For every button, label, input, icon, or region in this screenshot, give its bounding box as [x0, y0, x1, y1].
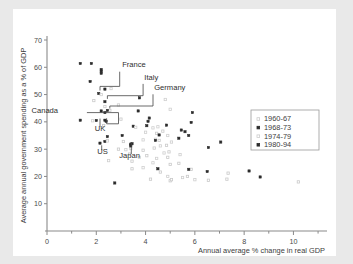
data-point — [153, 147, 155, 149]
annotation-france: France — [122, 60, 146, 69]
data-point — [131, 160, 133, 162]
scatter-chart: 102030405060700246810 FranceItalyGermany… — [13, 9, 336, 256]
annotation-germany: Germany — [154, 83, 185, 92]
data-point — [170, 141, 172, 143]
data-point — [144, 131, 146, 133]
data-point — [156, 132, 158, 134]
legend-marker — [257, 126, 260, 129]
data-point — [220, 141, 222, 143]
data-point — [170, 179, 172, 181]
data-point — [259, 176, 261, 178]
data-point — [91, 120, 93, 122]
data-point — [297, 181, 299, 183]
chart-card: 102030405060700246810 FranceItalyGermany… — [13, 9, 336, 256]
data-point — [89, 80, 91, 82]
data-point — [79, 62, 81, 64]
data-point — [190, 121, 192, 123]
data-point — [109, 109, 111, 111]
data-point — [194, 179, 196, 181]
data-point — [142, 167, 144, 169]
axis-titles: Annual average % change in real GDPAvera… — [19, 48, 325, 255]
data-point — [104, 101, 106, 103]
data-point — [137, 110, 139, 112]
data-point — [142, 139, 144, 141]
data-point — [159, 145, 161, 147]
data-point — [107, 159, 109, 161]
data-point — [158, 139, 160, 141]
data-point — [106, 109, 108, 111]
data-point — [146, 125, 148, 127]
series-1974-79 — [91, 87, 196, 180]
legend[interactable]: 1960-671968-731974-791980-94 — [251, 110, 319, 150]
legend-marker — [257, 118, 260, 121]
annotation-canada: Canada — [31, 106, 58, 115]
data-point — [158, 134, 160, 136]
data-point — [104, 105, 106, 107]
data-point — [90, 62, 92, 64]
y-axis-title: Average annual government spending as a … — [19, 48, 28, 224]
data-point — [169, 163, 171, 165]
data-point — [188, 134, 190, 136]
data-point — [106, 135, 108, 137]
data-point — [190, 168, 192, 170]
data-point — [132, 125, 134, 127]
data-point — [178, 162, 180, 164]
data-point — [178, 137, 180, 139]
data-point — [188, 168, 190, 170]
data-point — [156, 157, 158, 159]
x-tick-label: 2 — [94, 237, 98, 246]
data-point — [99, 142, 101, 144]
x-axis-title: Annual average % change in real GDP — [198, 246, 325, 255]
annotation-us: US — [97, 147, 108, 156]
y-tick-label: 20 — [34, 172, 42, 181]
legend-marker — [257, 135, 260, 138]
data-point — [148, 117, 150, 119]
data-point — [104, 119, 106, 121]
y-tick-label: 10 — [34, 199, 42, 208]
x-tick-label: 0 — [45, 237, 49, 246]
data-point — [248, 170, 250, 172]
x-tick-label: 6 — [193, 237, 197, 246]
data-point — [162, 130, 164, 132]
data-point — [207, 146, 209, 148]
data-point — [167, 156, 169, 158]
x-tick-label: 8 — [242, 237, 246, 246]
data-point — [135, 126, 137, 128]
data-point — [169, 108, 171, 110]
y-tick-label: 30 — [34, 145, 42, 154]
annotation-japan: Japan — [119, 151, 140, 160]
data-point — [184, 131, 186, 133]
data-point — [227, 172, 229, 174]
legend-marker — [257, 144, 260, 147]
data-point — [181, 176, 183, 178]
data-point — [142, 149, 144, 151]
legend-label: 1980-94 — [264, 140, 291, 149]
x-tick-label: 10 — [289, 237, 297, 246]
data-point — [95, 119, 97, 121]
data-point — [114, 182, 116, 184]
data-point — [167, 175, 169, 177]
y-tick-label: 40 — [34, 117, 42, 126]
data-point — [120, 118, 122, 120]
data-point — [121, 134, 123, 136]
data-point — [152, 162, 154, 164]
data-point — [100, 93, 102, 95]
annotation-italy: Italy — [144, 73, 158, 82]
y-tick-label: 70 — [34, 36, 42, 45]
data-point — [191, 111, 193, 113]
data-point — [157, 168, 159, 170]
x-tick-label: 4 — [144, 237, 148, 246]
data-point — [149, 178, 151, 180]
data-point — [226, 178, 228, 180]
data-point — [154, 139, 156, 141]
data-point — [152, 127, 154, 129]
data-point — [207, 179, 209, 181]
data-point — [159, 171, 161, 173]
data-point — [165, 124, 167, 126]
data-point — [165, 144, 167, 146]
data-point — [79, 119, 81, 121]
data-point — [110, 87, 112, 89]
leader-line-germany — [110, 94, 153, 108]
data-point — [100, 110, 102, 112]
data-point — [131, 168, 133, 170]
